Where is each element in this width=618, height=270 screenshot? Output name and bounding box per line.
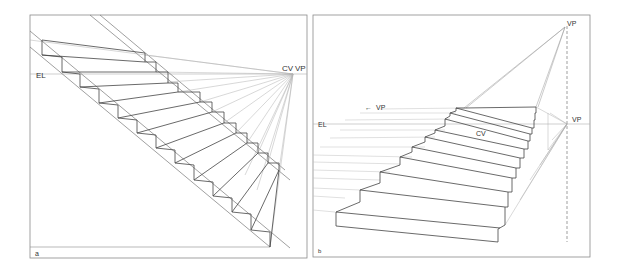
panel-a-eye-level-label: EL [36,71,46,80]
perspective-diagrams: EL CV VP a [0,0,618,270]
panel-b-left-receding-lines [313,108,464,212]
panel-b-incline-lines [464,27,565,108]
panel-b-vp-right-label: VP [572,116,582,123]
panel-b-right-convergence-lines [505,107,567,225]
panel-b-frame [313,15,590,257]
panel-b: EL ← VP CV VP VP b [313,15,590,257]
panel-a-label: a [35,250,39,257]
panel-a-stringers [30,15,290,248]
panel-b-cv-label: CV [476,130,486,137]
panel-b-vp-upper-label: VP [567,20,577,27]
panel-a: EL CV VP a [30,15,307,258]
panel-b-vp-left-label: VP [376,104,386,111]
panel-a-vp-label: VP [295,64,306,73]
panel-b-steps [336,107,536,242]
panel-a-cv-label: CV [282,64,294,73]
panel-b-label: b [318,248,322,254]
panel-b-left-arrow: ← [365,104,372,111]
panel-b-eye-level-label: EL [318,121,327,128]
